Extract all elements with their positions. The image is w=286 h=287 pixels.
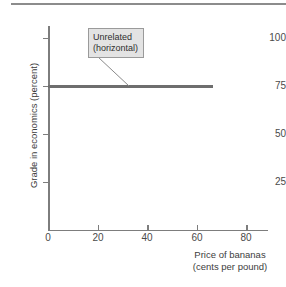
x-tick-60	[197, 225, 199, 230]
x-tick-label-80: 80	[234, 233, 258, 243]
y-tick-100	[43, 38, 48, 40]
x-axis-title-line1: Price of bananas	[178, 249, 282, 261]
x-tick-label-20: 20	[86, 233, 110, 243]
x-axis-title: Price of bananas (cents per pound)	[178, 249, 282, 273]
chart-figure: 100 75 50 25 0 20 40 60 80 Unrelated (ho…	[0, 0, 286, 287]
annotation-callout-unrelated: Unrelated (horizontal)	[88, 28, 144, 58]
y-tick-label-50: 50	[260, 129, 286, 139]
x-axis-title-line2: (cents per pound)	[178, 261, 282, 273]
x-axis-line	[48, 230, 268, 232]
callout-text-line1: Unrelated	[93, 32, 132, 43]
series-line-unrelated	[48, 85, 213, 89]
y-tick-label-75: 75	[260, 81, 286, 91]
top-divider-rule	[11, 3, 286, 5]
callout-text-line2: (horizontal)	[93, 43, 138, 54]
x-tick-20	[98, 225, 100, 230]
y-axis-line	[48, 26, 50, 231]
y-axis-title: Grade in economics (percent)	[28, 31, 39, 221]
callout-leader-line	[96, 56, 132, 88]
y-tick-label-100: 100	[260, 33, 286, 43]
y-tick-label-25: 25	[260, 177, 286, 187]
x-tick-80	[246, 225, 248, 230]
x-tick-label-60: 60	[185, 233, 209, 243]
y-tick-50	[43, 134, 48, 136]
x-tick-label-40: 40	[135, 233, 159, 243]
x-tick-0	[48, 225, 50, 230]
x-tick-label-0: 0	[36, 233, 60, 243]
x-tick-40	[147, 225, 149, 230]
y-tick-25	[43, 182, 48, 184]
